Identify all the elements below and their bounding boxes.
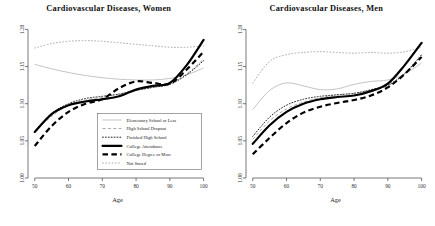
y-tick-label: 1.20 — [237, 24, 243, 34]
y-tick-label: 1.05 — [19, 136, 25, 146]
legend-label: College Degree or More — [127, 152, 172, 157]
x-tick-label: 90 — [167, 183, 173, 189]
series-line — [35, 41, 204, 48]
plot-area-women: 1.001.051.101.151.20 5060708090100 Eleme… — [0, 0, 218, 226]
plot-svg-women: 1.001.051.101.151.20 5060708090100 Eleme… — [0, 0, 218, 226]
y-tick-label: 1.10 — [237, 99, 243, 109]
series-group-men — [252, 43, 421, 154]
y-tick-label: 1.15 — [19, 62, 25, 72]
x-tick-label: 60 — [283, 183, 289, 189]
plot-area-men: 1.001.051.101.151.20 5060708090100 Age — [218, 0, 435, 226]
panel-men: Cardiovascular Diseases, Men 1.001.051.1… — [218, 0, 435, 226]
x-axis-ticks: 5060708090100 — [32, 178, 208, 189]
x-tick-label: 90 — [385, 183, 391, 189]
legend-label: College Attendance — [127, 144, 163, 149]
x-axis-label: Age — [112, 196, 123, 203]
x-tick-label: 70 — [100, 183, 106, 189]
y-axis-ticks: 1.001.051.101.151.20 — [19, 24, 28, 182]
x-tick-label: 50 — [32, 183, 38, 189]
legend-label: Not Stated — [127, 161, 147, 166]
x-tick-label: 80 — [351, 183, 357, 189]
y-tick-label: 1.10 — [19, 99, 25, 109]
legend-women: Elementary School or LessHigh School Dro… — [98, 114, 202, 170]
figure-container: Cardiovascular Diseases, Women 1.001.051… — [0, 0, 435, 226]
y-tick-label: 1.00 — [19, 173, 25, 183]
legend-label: Elementary School or Less — [127, 118, 177, 123]
y-tick-label: 1.00 — [237, 173, 243, 183]
series-line — [35, 64, 204, 80]
panel-women: Cardiovascular Diseases, Women 1.001.051… — [0, 0, 218, 226]
x-tick-label: 80 — [133, 183, 139, 189]
x-tick-label: 70 — [317, 183, 323, 189]
x-tick-label: 100 — [200, 183, 208, 189]
x-tick-label: 50 — [250, 183, 256, 189]
series-line — [252, 57, 421, 154]
x-tick-label: 100 — [417, 183, 425, 189]
y-tick-label: 1.05 — [237, 136, 243, 146]
series-line — [252, 55, 421, 137]
plot-svg-men: 1.001.051.101.151.20 5060708090100 Age — [218, 0, 435, 226]
legend-label: High School Dropout — [127, 126, 167, 131]
y-axis-ticks: 1.001.051.101.151.20 — [237, 24, 246, 182]
legend-label: Finished High School — [127, 135, 168, 140]
x-axis-ticks: 5060708090100 — [250, 178, 426, 189]
x-tick-label: 60 — [66, 183, 72, 189]
y-tick-label: 1.20 — [19, 24, 25, 34]
y-tick-label: 1.15 — [237, 62, 243, 72]
axes-men: 1.001.051.101.151.20 5060708090100 — [237, 24, 426, 189]
x-axis-label: Age — [330, 196, 341, 203]
